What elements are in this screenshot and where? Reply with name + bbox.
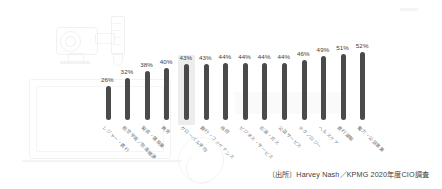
category-label: ビジネス・サービス: [239, 124, 275, 160]
bar-value-label: 44%: [277, 53, 290, 60]
chart-figure: 26%レジャー・旅行32%航空宇宙／防衛関連38%製造・建設業40%教育43%グ…: [0, 0, 442, 189]
category-label: 航空宇宙／防衛関連: [121, 124, 157, 160]
category-label: 教育: [161, 124, 172, 135]
category-label: 銀行・ファイナンス: [200, 124, 236, 160]
category-label: 旅行運輸: [337, 124, 356, 143]
bar[interactable]: [321, 56, 326, 120]
bar-value-label: 40%: [160, 58, 173, 65]
bar[interactable]: [302, 60, 307, 120]
category-label: 電力・公益事業: [357, 124, 386, 153]
bar[interactable]: [360, 52, 365, 120]
bar[interactable]: [145, 71, 150, 120]
bar-value-label: 49%: [317, 46, 330, 53]
bar-value-label: 52%: [356, 42, 369, 49]
bar-value-label: 32%: [121, 68, 134, 75]
category-label: 政府: [219, 124, 230, 135]
bar[interactable]: [204, 64, 209, 120]
bar-value-label: 26%: [101, 76, 114, 83]
bar[interactable]: [341, 54, 346, 120]
bar[interactable]: [184, 64, 189, 120]
bar-value-label: 51%: [336, 44, 349, 51]
source-note: 〔出所〕Harvey Nash／KPMG 2020年度CIO調査: [268, 169, 429, 179]
bar-value-label: 44%: [219, 53, 232, 60]
bar[interactable]: [223, 63, 228, 120]
plot-area: 26%レジャー・旅行32%航空宇宙／防衛関連38%製造・建設業40%教育43%グ…: [0, 0, 442, 189]
bar-value-label: 46%: [297, 50, 310, 57]
bar-value-label: 43%: [179, 54, 192, 61]
bar[interactable]: [164, 68, 169, 120]
bar-value-label: 43%: [199, 54, 212, 61]
bar[interactable]: [125, 78, 130, 120]
bar-value-label: 38%: [140, 61, 153, 68]
bar-value-label: 44%: [238, 53, 251, 60]
bar[interactable]: [262, 63, 267, 120]
bar[interactable]: [243, 63, 248, 120]
bar[interactable]: [282, 63, 287, 120]
bar[interactable]: [106, 86, 111, 120]
bar-value-label: 44%: [258, 53, 271, 60]
